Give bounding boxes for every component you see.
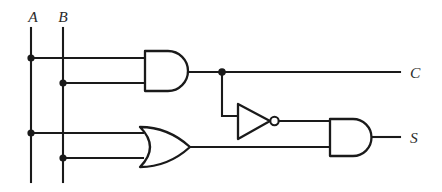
output-label-s: S	[410, 129, 418, 146]
input-label-a: A	[27, 8, 38, 25]
junction-carry-tap	[218, 68, 226, 76]
logic-circuit-diagram: A B C S	[0, 0, 442, 192]
and-gate-2	[330, 119, 371, 156]
not-gate-triangle	[238, 104, 270, 139]
junction-b-and1	[59, 79, 66, 86]
not-gate-bubble-icon	[270, 117, 278, 125]
junction-a-or1	[27, 129, 34, 136]
junction-b-or1	[59, 154, 66, 161]
circuit-canvas: A B C S	[0, 0, 442, 192]
wire-carry-to-not	[222, 72, 238, 116]
input-label-b: B	[58, 8, 68, 25]
and-gate-1	[145, 51, 188, 91]
or-gate-1	[140, 127, 190, 167]
junction-a-and1	[27, 54, 34, 61]
output-label-c: C	[410, 64, 421, 81]
